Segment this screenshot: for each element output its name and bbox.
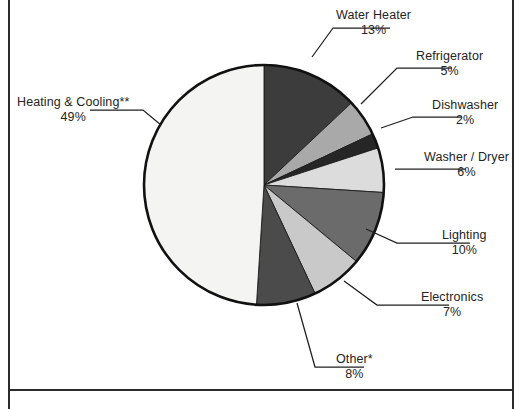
pie-chart-figure: Water Heater13%Refrigerator5%Dishwasher2… <box>0 0 523 409</box>
slice-label-name: Washer / Dryer <box>424 150 509 165</box>
slice-label-percent: 8% <box>336 367 373 382</box>
pie-slice-heating-cooling[interactable] <box>144 65 264 305</box>
slice-label-lighting: Lighting10% <box>442 228 487 259</box>
slice-label-refrigerator: Refrigerator5% <box>416 49 483 80</box>
slice-label-name: Heating & Cooling** <box>17 95 129 110</box>
slice-label-percent: 13% <box>336 23 411 38</box>
slice-label-percent: 6% <box>424 165 509 180</box>
slice-label-percent: 5% <box>416 64 483 79</box>
slice-label-washer-dryer: Washer / Dryer6% <box>424 150 509 181</box>
slice-label-heating-cooling: Heating & Cooling**49% <box>17 95 129 126</box>
slice-label-percent: 49% <box>17 110 129 125</box>
slice-label-percent: 7% <box>421 305 483 320</box>
slice-label-name: Water Heater <box>336 8 411 23</box>
slice-label-name: Dishwasher <box>432 98 498 113</box>
slice-label-name: Electronics <box>421 290 483 305</box>
slice-label-dishwasher: Dishwasher2% <box>432 98 498 129</box>
slice-label-other: Other*8% <box>336 352 373 383</box>
slice-label-name: Refrigerator <box>416 49 483 64</box>
slice-label-percent: 2% <box>432 113 498 128</box>
slice-label-name: Lighting <box>442 228 487 243</box>
slice-label-water-heater: Water Heater13% <box>336 8 411 39</box>
slice-label-percent: 10% <box>442 243 487 258</box>
slice-label-name: Other* <box>336 352 373 367</box>
slice-label-electronics: Electronics7% <box>421 290 483 321</box>
